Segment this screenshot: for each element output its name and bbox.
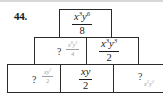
top-denominator: 8	[79, 26, 84, 37]
bottom-middle-denominator: 2	[83, 81, 88, 92]
hint-denominator: 2	[46, 78, 49, 84]
bottom-middle-numerator: xy	[79, 67, 92, 78]
fraction-bar	[66, 49, 79, 50]
problem-number: 44.	[14, 10, 27, 22]
hint-numerator: xy2	[42, 69, 53, 75]
hint-fraction: x0y3 4	[66, 42, 79, 57]
middle-right-fraction: x3y3 2	[99, 39, 119, 63]
middle-right-numerator: x3y3	[99, 39, 119, 50]
top-edge-strip	[0, 0, 163, 2]
fraction-bar	[42, 76, 53, 77]
pyramid-middle-right-cell: x3y3 2	[86, 37, 139, 65]
pyramid-top-cell: x3y6 8	[59, 9, 112, 38]
question-mark: ?	[32, 74, 36, 85]
question-mark: ?	[57, 46, 61, 57]
pyramid-bottom-right-cell[interactable]: ? x2y2	[113, 64, 163, 93]
top-numerator: x3y6	[72, 12, 92, 23]
top-fraction: x3y6 8	[72, 12, 92, 36]
pyramid-middle-left-cell[interactable]: ? x0y3 4	[34, 37, 87, 65]
middle-right-denominator: 2	[106, 53, 111, 64]
question-mark: ?	[138, 71, 142, 82]
pyramid-bottom-middle-cell: xy 2	[60, 64, 114, 93]
hint-denominator: 4	[71, 51, 74, 57]
hint-monomial: x2y2	[144, 80, 154, 87]
hint-numerator: x0y3	[66, 42, 79, 48]
bottom-middle-fraction: xy 2	[79, 67, 92, 91]
hint-fraction: xy2 2	[42, 69, 53, 84]
pyramid-bottom-left-cell[interactable]: ? xy2 2	[7, 64, 61, 93]
